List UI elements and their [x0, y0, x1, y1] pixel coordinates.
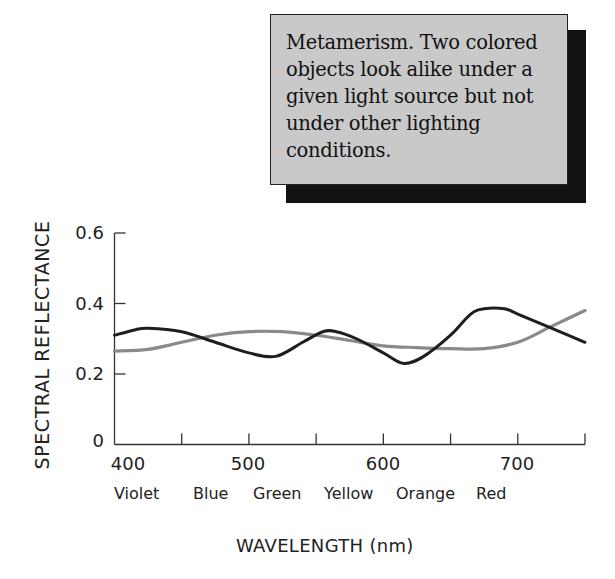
- y-tick-label: 0: [54, 430, 104, 451]
- chart-plot-area: [0, 0, 615, 579]
- color-band-label: Yellow: [324, 484, 373, 503]
- y-axis-label: SPECTRAL REFLECTANCE: [31, 220, 53, 469]
- y-ticks: [115, 233, 126, 374]
- series-group: [115, 308, 586, 363]
- x-tick-label: 700: [500, 453, 534, 474]
- series-gray-line: [115, 311, 586, 352]
- series-dark-line: [115, 308, 586, 363]
- x-axis-label: WAVELENGTH (nm): [236, 535, 414, 556]
- x-ticks: [182, 434, 585, 445]
- color-band-label: Red: [476, 484, 506, 503]
- x-tick-label: 400: [111, 453, 145, 474]
- color-band-label: Blue: [193, 484, 228, 503]
- color-band-label: Green: [253, 484, 301, 503]
- axes: [115, 233, 586, 445]
- color-band-label: Violet: [114, 484, 159, 503]
- x-tick-label: 500: [231, 453, 265, 474]
- y-tick-label: 0.6: [54, 222, 104, 243]
- y-tick-label: 0.2: [54, 363, 104, 384]
- color-band-label: Orange: [396, 484, 455, 503]
- x-tick-label: 600: [366, 453, 400, 474]
- y-tick-label: 0.4: [54, 293, 104, 314]
